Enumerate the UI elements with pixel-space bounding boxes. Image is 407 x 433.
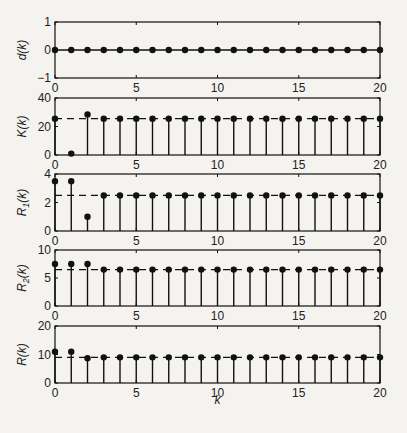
stem-marker: [84, 261, 90, 267]
stem-marker: [361, 266, 367, 272]
stem-marker: [117, 266, 123, 272]
stem-marker: [198, 192, 204, 198]
stem-marker: [296, 115, 302, 121]
stem-marker: [377, 266, 383, 272]
stem-marker: [117, 47, 123, 53]
x-tick-label: 15: [292, 81, 306, 95]
stem-marker: [68, 47, 74, 53]
stem-marker: [231, 115, 237, 121]
x-tick-label: 0: [52, 234, 59, 248]
stem-marker: [279, 354, 285, 360]
stem-marker: [214, 192, 220, 198]
stem-marker: [296, 266, 302, 272]
y-axis-label: R(k): [15, 343, 29, 366]
y-axis-label: K(k): [15, 116, 29, 138]
stem-marker: [361, 192, 367, 198]
stem-marker: [247, 192, 253, 198]
stem-marker: [312, 192, 318, 198]
stem-marker: [149, 192, 155, 198]
stem-marker: [231, 192, 237, 198]
stem-marker: [182, 47, 188, 53]
y-tick-label: 0: [44, 43, 51, 57]
stem-marker: [296, 192, 302, 198]
x-tick-label: 15: [292, 234, 306, 248]
stem-marker: [361, 354, 367, 360]
y-tick-label: 10: [38, 348, 52, 362]
stem-marker: [166, 192, 172, 198]
stem-marker: [377, 115, 383, 121]
stem-marker: [166, 47, 172, 53]
x-tick-label: 5: [133, 234, 140, 248]
stem-marker: [247, 47, 253, 53]
stem-marker: [279, 266, 285, 272]
x-tick-label: 5: [133, 309, 140, 323]
x-tick-label: 20: [373, 158, 387, 172]
stem-marker: [149, 115, 155, 121]
stem-marker: [312, 266, 318, 272]
x-tick-label: 0: [52, 158, 59, 172]
stem-marker: [52, 348, 58, 354]
stem-marker: [214, 47, 220, 53]
x-tick-label: 15: [292, 309, 306, 323]
x-tick-label: 10: [211, 309, 225, 323]
y-tick-label: 0: [44, 376, 51, 390]
stem-marker: [377, 192, 383, 198]
x-tick-label: 10: [211, 158, 225, 172]
stem-marker: [52, 115, 58, 121]
stem-marker: [247, 354, 253, 360]
y-tick-label: 0: [44, 224, 51, 238]
stem-marker: [296, 47, 302, 53]
stem-marker: [166, 266, 172, 272]
stem-marker: [263, 47, 269, 53]
stem-marker: [279, 192, 285, 198]
stem-marker: [133, 266, 139, 272]
y-axis-label: d(k): [15, 40, 29, 61]
stem-marker: [52, 178, 58, 184]
stem-marker: [344, 266, 350, 272]
stem-marker: [133, 115, 139, 121]
panel-5: 0102005101520R(k): [15, 319, 387, 400]
y-tick-label: −1: [37, 71, 51, 85]
panel-3: 02405101520R1(k): [15, 167, 387, 248]
stem-marker: [68, 348, 74, 354]
stem-marker: [198, 354, 204, 360]
stem-marker: [279, 115, 285, 121]
stem-marker: [84, 47, 90, 53]
stem-marker: [149, 266, 155, 272]
stem-marker: [328, 266, 334, 272]
stem-marker: [214, 266, 220, 272]
stem-marker: [231, 354, 237, 360]
stem-marker: [296, 354, 302, 360]
y-tick-label: 0: [44, 299, 51, 313]
stem-marker: [68, 150, 74, 156]
y-tick-label: 2: [44, 196, 51, 210]
stem-marker: [328, 192, 334, 198]
stem-marker: [263, 266, 269, 272]
stem-marker: [84, 355, 90, 361]
stem-marker: [377, 354, 383, 360]
x-axis-label: k: [215, 393, 222, 407]
x-tick-label: 20: [373, 386, 387, 400]
stem-chart: −10105101520d(k)0204005101520K(k)0240510…: [0, 0, 407, 433]
stem-marker: [101, 47, 107, 53]
stem-marker: [198, 266, 204, 272]
stem-marker: [198, 47, 204, 53]
y-axis-label: R2(k): [15, 264, 31, 292]
stem-marker: [344, 115, 350, 121]
stem-marker: [117, 115, 123, 121]
stem-marker: [263, 115, 269, 121]
stem-marker: [344, 192, 350, 198]
stem-marker: [133, 192, 139, 198]
stem-marker: [182, 266, 188, 272]
stem-marker: [101, 192, 107, 198]
panel-1: −10105101520d(k): [15, 15, 387, 95]
x-tick-label: 15: [292, 158, 306, 172]
stem-marker: [101, 266, 107, 272]
stem-marker: [344, 47, 350, 53]
stem-marker: [182, 192, 188, 198]
y-axis-label: R1(k): [15, 189, 31, 217]
stem-marker: [279, 47, 285, 53]
stem-marker: [68, 261, 74, 267]
x-tick-label: 5: [133, 158, 140, 172]
stem-marker: [328, 47, 334, 53]
